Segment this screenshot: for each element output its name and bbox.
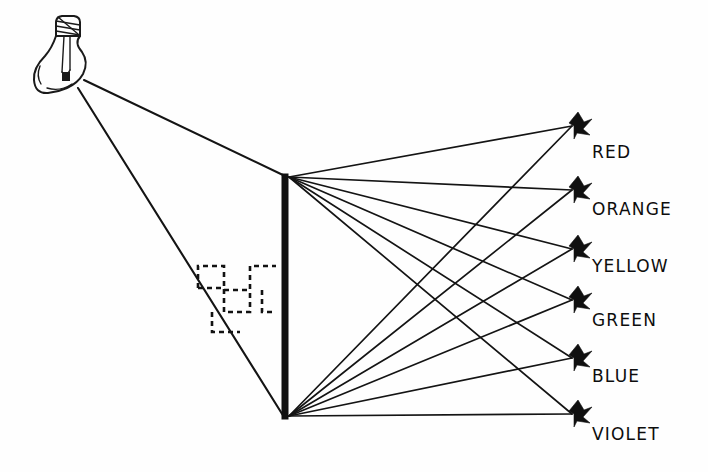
spectrum-arrowheads [569,112,592,427]
ray-bottom-to-yellow [289,249,572,416]
incident-ray-upper [84,80,285,176]
ray-bottom-to-blue [289,358,572,416]
ray-bottom-to-orange [289,190,572,416]
diagram-canvas: RED ORANGE YELLOW GREEN BLUE VIOLET [0,0,708,472]
ray-top-to-blue [289,177,572,358]
spectrum-labels: RED ORANGE YELLOW GREEN BLUE VIOLET [591,142,672,444]
ray-bottom-to-green [289,300,572,416]
label-orange: ORANGE [592,199,672,219]
label-violet: VIOLET [592,424,660,444]
light-bulb-icon [34,16,86,93]
label-blue: BLUE [592,366,640,386]
label-green: GREEN [592,310,657,330]
label-red: RED [592,142,631,162]
incident-rays [78,80,285,417]
label-yellow: YELLOW [591,256,669,276]
slit-barrier [282,174,288,419]
incident-ray-lower [78,88,284,417]
dispersion-diagram: RED ORANGE YELLOW GREEN BLUE VIOLET [0,0,708,472]
ray-bottom-to-violet [289,414,572,416]
